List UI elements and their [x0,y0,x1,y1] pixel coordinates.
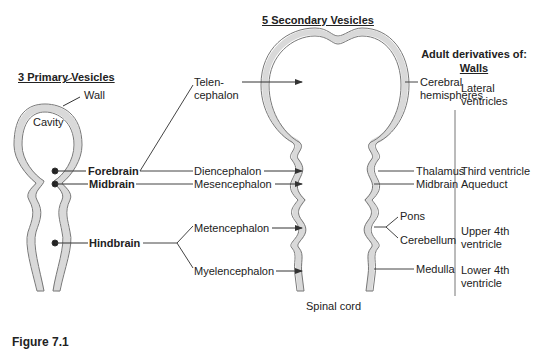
medulla-label: Medulla [416,263,455,276]
figure-caption: Figure 7.1 [12,336,69,349]
pons-label: Pons [400,210,425,223]
cerebral-label-1: Cerebral [420,76,462,89]
adult-derivatives-title: Adult derivatives of: [406,48,542,61]
metencephalon-label: Metencephalon [194,222,269,235]
lower-4th-label-1: Lower 4th [461,264,509,277]
aqueduct-label: Aqueduct [461,178,507,191]
third-ventricle-label: Third ventricle [461,165,530,178]
spinal-cord-label: Spinal cord [306,300,361,313]
upper-4th-label-1: Upper 4th [461,225,509,238]
myelencephalon-label: Myelencephalon [194,265,274,278]
cerebellum-label: Cerebellum [400,234,456,247]
lateral-label-1: Lateral [461,82,495,95]
lower-4th-label-2: ventricle [461,277,502,290]
midbrain-primary-label: Midbrain [89,178,135,191]
cavity-label: Cavity [33,116,64,129]
telencephalon-label-2: cephalon [194,89,239,102]
lateral-label-2: ventricles [461,95,507,108]
upper-4th-label-2: ventricle [461,238,502,251]
secondary-vesicles-title: 5 Secondary Vesicles [262,14,374,27]
mesencephalon-label: Mesencephalon [194,178,272,191]
wall-label: Wall [84,89,105,102]
telencephalon-label-1: Telen- [194,76,224,89]
thalamus-label: Thalamus [416,165,464,178]
walls-title: Walls [406,62,542,75]
midbrain-wall-label: Midbrain [416,178,458,191]
hindbrain-label: Hindbrain [89,237,140,250]
primary-vesicles-title: 3 Primary Vesicles [18,71,115,84]
forebrain-label: Forebrain [88,165,139,178]
diencephalon-label: Diencephalon [194,165,261,178]
primary-vesicle-shape [18,108,78,291]
